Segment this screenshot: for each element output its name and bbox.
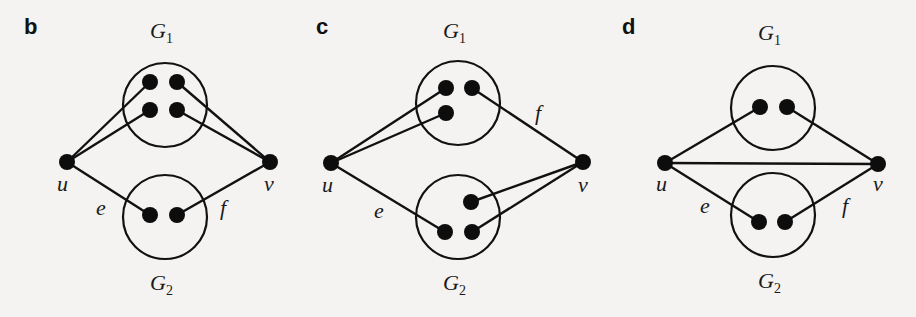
vertex [751,214,767,230]
edge-label-e: e [700,193,710,218]
cluster-g2 [123,175,207,259]
graph-figure: b G1 G2 u v e f c G1 G2 [0,0,916,317]
edge-label-e: e [96,195,106,220]
vertex [752,99,768,115]
vertex-v [575,154,591,170]
vertex-label-v: v [578,172,588,197]
vertex-u [323,155,339,171]
edge [787,107,878,164]
vertex-label-u: u [322,172,333,197]
cluster-label-g1: G1 [443,18,466,46]
vertex-label-u: u [656,171,667,196]
panel-label-c: c [316,14,328,39]
cluster-label-g2: G2 [758,268,781,296]
panel-b: b G1 G2 u v e f [24,14,278,298]
vertex [464,80,480,96]
panel-c: c G1 G2 u v e f [316,14,591,298]
edge-f [472,88,583,162]
vertex [169,102,185,118]
vertex [437,224,453,240]
cluster-g2 [416,175,500,259]
vertex [169,74,185,90]
vertex-v [262,154,278,170]
edge [177,110,270,162]
vertex [438,80,454,96]
vertex [142,207,158,223]
vertex [463,194,479,210]
edge-label-f: f [220,195,229,220]
edge [331,113,446,163]
vertex-v [870,156,886,172]
edge [67,82,150,162]
cluster-g2 [731,173,815,257]
cluster-label-g2: G2 [150,270,173,298]
edge [177,82,270,162]
vertex-label-u: u [57,171,68,196]
edge-uv [665,163,878,164]
edge-e [665,163,759,222]
cluster-g1 [731,66,815,150]
edge [331,88,446,163]
vertex [142,74,158,90]
edge [472,162,583,232]
panel-d: d G1 G2 u v e f [622,14,886,296]
edge-label-f: f [842,193,851,218]
edge [665,107,760,163]
vertex-label-v: v [873,171,883,196]
cluster-label-g1: G1 [758,20,781,48]
edge-label-e: e [374,198,384,223]
edge-f [785,164,878,222]
vertex-label-v: v [264,171,274,196]
vertex [169,207,185,223]
vertex-u [657,155,673,171]
vertex [464,224,480,240]
cluster-label-g1: G1 [150,18,173,46]
panel-label-b: b [24,14,37,39]
vertex [438,105,454,121]
vertex-u [59,154,75,170]
vertex [777,214,793,230]
cluster-g1 [123,63,207,147]
edge-label-f: f [535,100,544,125]
cluster-g1 [416,61,500,145]
panel-label-d: d [622,14,635,39]
cluster-label-g2: G2 [443,270,466,298]
vertex [142,102,158,118]
edge-e [67,162,150,215]
edge-e [331,163,445,232]
vertex [779,99,795,115]
